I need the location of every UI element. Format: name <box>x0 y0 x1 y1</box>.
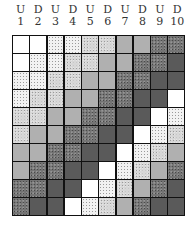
grid-cell <box>30 144 46 161</box>
grid-cell <box>117 162 133 179</box>
grid-cell <box>13 198 29 215</box>
grid-cell <box>99 108 115 125</box>
grid-cell <box>99 72 115 89</box>
grid-cell <box>13 108 29 125</box>
grid-cell <box>134 72 150 89</box>
grid-cell <box>168 72 184 89</box>
grid-cell <box>99 90 115 107</box>
grid-cell <box>117 144 133 161</box>
grid-cell <box>13 162 29 179</box>
grid-cell <box>151 162 167 179</box>
column-number: 2 <box>29 16 46 28</box>
grid-cell <box>134 54 150 71</box>
grid-cell <box>117 36 133 53</box>
grid-cell <box>48 144 64 161</box>
grid-cell <box>151 180 167 197</box>
column-header: D10 <box>169 4 186 28</box>
grid-cell <box>117 198 133 215</box>
grid-cell <box>168 54 184 71</box>
grid-cell <box>99 36 115 53</box>
tone-grid <box>12 35 185 216</box>
column-number: 10 <box>169 16 186 28</box>
grid-cell <box>65 72 81 89</box>
grid-cell <box>30 36 46 53</box>
grid-cell <box>151 90 167 107</box>
grid-cell <box>82 144 98 161</box>
grid-cell <box>65 108 81 125</box>
grid-cell <box>48 126 64 143</box>
grid-cell <box>117 126 133 143</box>
grid-cell <box>168 162 184 179</box>
grid-cell <box>65 198 81 215</box>
grid-cell <box>168 126 184 143</box>
grid-cell <box>82 90 98 107</box>
grid-cell <box>48 180 64 197</box>
column-number: 7 <box>116 16 133 28</box>
grid-cell <box>30 198 46 215</box>
grid-cell <box>134 108 150 125</box>
grid-cell <box>13 180 29 197</box>
grid-cell <box>117 180 133 197</box>
grid-cell <box>13 144 29 161</box>
grid-cell <box>13 90 29 107</box>
grid-cell <box>134 162 150 179</box>
grid-cell <box>99 198 115 215</box>
grid-cell <box>151 36 167 53</box>
grid-cell <box>151 108 167 125</box>
column-header: D2 <box>29 4 46 28</box>
grid-cell <box>151 54 167 71</box>
grid-cell <box>82 108 98 125</box>
column-header: D4 <box>64 4 81 28</box>
column-number: 3 <box>47 16 64 28</box>
grid-cell <box>65 144 81 161</box>
grid-cell <box>82 162 98 179</box>
grid-cell <box>65 162 81 179</box>
grid-cell <box>48 162 64 179</box>
grid-cell <box>151 72 167 89</box>
grid-cell <box>48 36 64 53</box>
grid-cell <box>65 90 81 107</box>
grid-cell <box>48 90 64 107</box>
grid-cell <box>82 180 98 197</box>
grid-cell <box>151 126 167 143</box>
grid-cell <box>168 198 184 215</box>
column-header: D6 <box>99 4 116 28</box>
grid-cell <box>134 198 150 215</box>
grid-cell <box>30 180 46 197</box>
grid-cell <box>30 90 46 107</box>
grid-cell <box>65 126 81 143</box>
column-number: 5 <box>82 16 99 28</box>
grid-cell <box>134 144 150 161</box>
column-header: U5 <box>82 4 99 28</box>
grid-cell <box>48 54 64 71</box>
column-number: 1 <box>12 16 29 28</box>
grid-cell <box>151 198 167 215</box>
grid-cell <box>117 54 133 71</box>
grid-cell <box>151 144 167 161</box>
column-number: 4 <box>64 16 81 28</box>
grid-cell <box>65 54 81 71</box>
column-number: 9 <box>151 16 168 28</box>
column-header: D8 <box>134 4 151 28</box>
grid-cell <box>99 126 115 143</box>
grid-cell <box>99 144 115 161</box>
grid-cell <box>30 72 46 89</box>
grid-cell <box>117 72 133 89</box>
grid-cell <box>168 180 184 197</box>
grid-cell <box>168 108 184 125</box>
grid-cell <box>30 54 46 71</box>
grid-cell <box>30 108 46 125</box>
grid-cell <box>134 36 150 53</box>
column-header: U9 <box>151 4 168 28</box>
grid-cell <box>99 162 115 179</box>
grid-cell <box>117 108 133 125</box>
grid-cell <box>168 36 184 53</box>
grid-cell <box>134 180 150 197</box>
grid-cell <box>99 54 115 71</box>
grid-cell <box>30 162 46 179</box>
grid-cell <box>13 54 29 71</box>
grid-cell <box>30 126 46 143</box>
grid-cell <box>13 72 29 89</box>
column-number: 8 <box>134 16 151 28</box>
grid-cell <box>13 126 29 143</box>
